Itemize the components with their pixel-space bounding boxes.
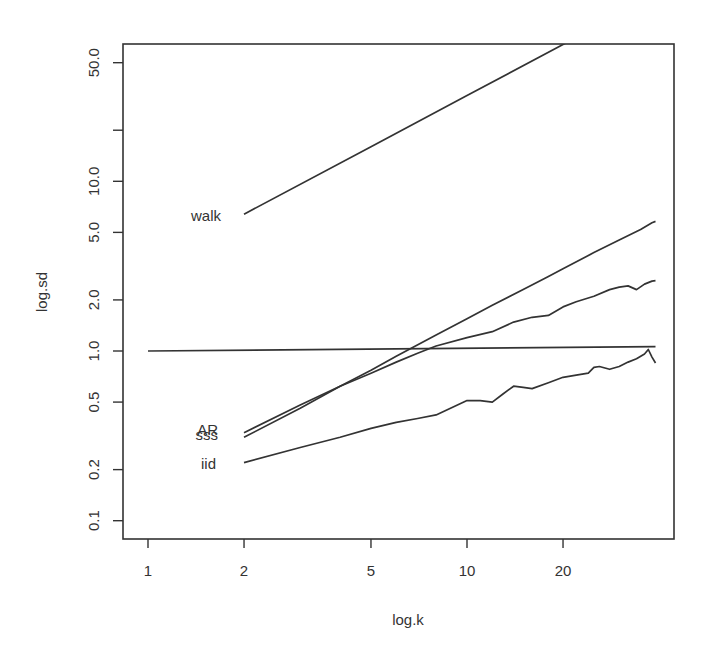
x-tick-label: 10: [459, 562, 476, 579]
log-log-plot: 1251020 0.10.20.51.02.05.010.050.0 walk …: [0, 0, 712, 650]
y-tick-label: 50.0: [85, 48, 102, 77]
x-axis-title: log.k: [392, 611, 424, 628]
y-tick-label: 2.0: [85, 289, 102, 310]
series-lines: [148, 38, 656, 463]
series-line-sss: [244, 221, 656, 437]
y-axis-title: log.sd: [33, 272, 50, 312]
y-tick-label: 0.2: [85, 459, 102, 480]
x-tick-label: 20: [555, 562, 572, 579]
series-label-sss: sss: [196, 426, 219, 443]
x-axis: 1251020: [144, 539, 572, 579]
y-axis: 0.10.20.51.02.05.010.050.0: [85, 48, 123, 531]
y-tick-label: 1.0: [85, 341, 102, 362]
y-tick-label: 0.5: [85, 392, 102, 413]
series-label-iid: iid: [201, 455, 216, 472]
x-tick-label: 2: [240, 562, 248, 579]
series-label-walk: walk: [190, 207, 222, 224]
series-line-walk: [244, 38, 576, 214]
y-tick-label: 0.1: [85, 510, 102, 531]
x-tick-label: 5: [367, 562, 375, 579]
y-tick-label: 10.0: [85, 167, 102, 196]
y-tick-label: 5.0: [85, 222, 102, 243]
x-tick-label: 1: [144, 562, 152, 579]
series-line-reference: [148, 347, 656, 351]
series-line-AR: [244, 281, 656, 433]
